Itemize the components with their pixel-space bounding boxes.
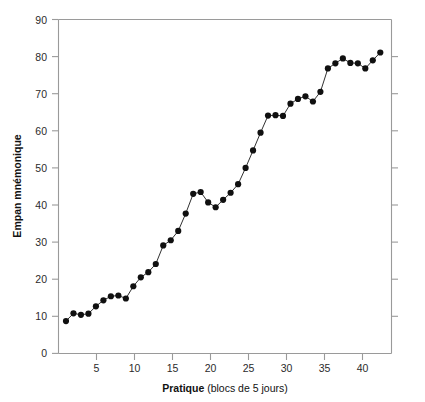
data-point [287, 101, 293, 107]
data-point [108, 293, 114, 299]
y-tick-label-60: 60 [35, 125, 47, 137]
data-point [228, 190, 234, 196]
data-point [78, 312, 84, 318]
x-tick-label-15: 15 [167, 362, 179, 374]
y-axis-ticks-left [52, 20, 59, 354]
x-tick-label-25: 25 [243, 362, 255, 374]
data-point [377, 49, 383, 55]
data-point [138, 274, 144, 280]
plot-frame [59, 20, 392, 354]
data-point [295, 96, 301, 102]
x-tick-label-30: 30 [281, 362, 293, 374]
data-point [123, 295, 129, 301]
data-point [355, 60, 361, 66]
data-point [168, 237, 174, 243]
data-point [370, 57, 376, 63]
data-point [332, 60, 338, 66]
data-point [340, 55, 346, 61]
data-point [220, 197, 226, 203]
y-tick-label-20: 20 [35, 273, 47, 285]
data-point [153, 261, 159, 267]
data-point [160, 242, 166, 248]
y-tick-label-0: 0 [41, 347, 47, 359]
data-point [70, 310, 76, 316]
data-point [265, 112, 271, 118]
data-point [235, 181, 241, 187]
x-tick-label-10: 10 [129, 362, 141, 374]
data-point [198, 189, 204, 195]
x-axis-ticks [97, 354, 363, 361]
x-axis-tick-labels: 5 10 15 20 25 30 35 40 [94, 362, 369, 374]
data-point [115, 292, 121, 298]
data-point [183, 210, 189, 216]
y-tick-label-40: 40 [35, 199, 47, 211]
y-axis-ticks-right [392, 57, 399, 317]
chart-figure: 90 80 70 60 50 40 30 20 10 0 5 10 15 20 … [0, 0, 425, 402]
y-tick-label-10: 10 [35, 310, 47, 322]
data-series-points [63, 49, 384, 324]
y-axis-tick-labels: 90 80 70 60 50 40 30 20 10 0 [35, 14, 47, 360]
data-point [250, 147, 256, 153]
y-tick-label-70: 70 [35, 88, 47, 100]
data-point [205, 199, 211, 205]
data-series-line [66, 53, 380, 322]
data-point [317, 89, 323, 95]
data-point [310, 98, 316, 104]
data-point [302, 93, 308, 99]
data-point [93, 303, 99, 309]
y-tick-label-50: 50 [35, 162, 47, 174]
data-point [257, 130, 263, 136]
memory-span-practice-line-chart: 90 80 70 60 50 40 30 20 10 0 5 10 15 20 … [0, 0, 425, 402]
data-point [85, 311, 91, 317]
data-point [145, 269, 151, 275]
data-point [213, 204, 219, 210]
x-tick-label-40: 40 [357, 362, 369, 374]
y-tick-label-80: 80 [35, 51, 47, 63]
data-point [100, 297, 106, 303]
data-point [63, 318, 69, 324]
data-series-group [63, 49, 384, 324]
y-tick-label-30: 30 [35, 236, 47, 248]
data-point [130, 283, 136, 289]
y-tick-label-90: 90 [35, 14, 47, 26]
y-axis-title: Empan mnémonique [11, 134, 23, 237]
x-axis-title: Pratique (blocs de 5 jours) [162, 382, 287, 394]
x-tick-label-20: 20 [205, 362, 217, 374]
x-tick-label-5: 5 [94, 362, 100, 374]
data-point [325, 65, 331, 71]
x-axis-title-bold: Pratique [162, 382, 204, 394]
data-point [347, 60, 353, 66]
data-point [272, 112, 278, 118]
data-point [280, 113, 286, 119]
x-tick-label-35: 35 [319, 362, 331, 374]
data-point [362, 65, 368, 71]
data-point [190, 191, 196, 197]
x-axis-title-rest: (blocs de 5 jours) [204, 382, 287, 394]
data-point [242, 165, 248, 171]
data-point [175, 228, 181, 234]
